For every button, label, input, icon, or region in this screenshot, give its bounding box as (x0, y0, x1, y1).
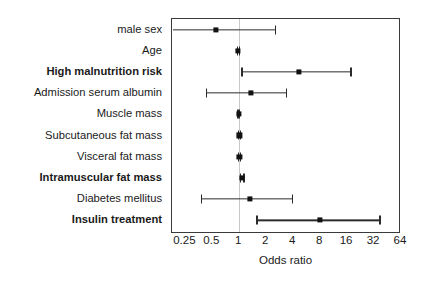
forest-row (172, 83, 399, 104)
odds-ratio-point-estimate (240, 175, 245, 180)
x-axis-title: Odds ratio (171, 254, 400, 266)
odds-ratio-point-estimate (248, 91, 253, 96)
x-axis-tick-labels: 0.250.51248163264 (171, 234, 400, 248)
confidence-interval-cap-upper (275, 25, 276, 34)
confidence-interval-cap-upper (292, 195, 293, 204)
row-label-male-sex: male sex (117, 23, 162, 35)
forest-row (172, 40, 399, 61)
row-label-column: male sexAgeHigh malnutrition riskAdmissi… (0, 18, 166, 233)
forest-row (172, 19, 399, 40)
odds-ratio-point-estimate (236, 48, 241, 53)
confidence-interval-cap-lower (206, 89, 207, 98)
odds-ratio-point-estimate (237, 154, 242, 159)
x-tick-label: 16 (340, 234, 353, 247)
x-tick-label: 1 (235, 234, 241, 247)
confidence-interval-cap-lower (241, 67, 242, 76)
forest-row (172, 189, 399, 210)
forest-row (172, 146, 399, 167)
row-label-admission-serum-albumin: Admission serum albumin (34, 86, 162, 98)
odds-ratio-point-estimate (236, 112, 241, 117)
odds-ratio-point-estimate (213, 27, 218, 32)
row-label-subcutaneous-fat-mass: Subcutaneous fat mass (45, 129, 162, 141)
forest-plot-figure: male sexAgeHigh malnutrition riskAdmissi… (0, 0, 424, 282)
confidence-interval-cap-lower (256, 216, 257, 225)
odds-ratio-point-estimate (237, 133, 242, 138)
confidence-interval-line (206, 92, 287, 93)
forest-row (172, 167, 399, 188)
odds-ratio-point-estimate (247, 197, 252, 202)
confidence-interval-cap-upper (350, 67, 351, 76)
x-tick-label: 8 (316, 234, 322, 247)
x-tick-label: 64 (394, 234, 407, 247)
row-label-insulin-treatment: Insulin treatment (72, 213, 162, 225)
row-label-muscle-mass: Muscle mass (97, 107, 162, 119)
forest-row (172, 61, 399, 82)
odds-ratio-point-estimate (318, 218, 323, 223)
x-tick-label: 32 (367, 234, 380, 247)
forest-row (172, 210, 399, 231)
odds-ratio-point-estimate (296, 69, 301, 74)
plot-area (171, 18, 400, 233)
forest-row (172, 125, 399, 146)
row-label-high-malnutrition-risk: High malnutrition risk (46, 65, 162, 77)
confidence-interval-cap-upper (286, 89, 287, 98)
confidence-interval-line (173, 29, 277, 30)
x-tick-label: 0.5 (203, 234, 219, 247)
row-label-intramuscular-fat-mass: Intramuscular fat mass (40, 171, 163, 183)
confidence-interval-cap-upper (379, 216, 380, 225)
x-tick-label: 4 (289, 234, 295, 247)
forest-row (172, 104, 399, 125)
plot-inner (172, 19, 399, 232)
row-label-visceral-fat-mass: Visceral fat mass (77, 150, 162, 162)
confidence-interval-cap-lower (201, 195, 202, 204)
row-label-diabetes-mellitus: Diabetes mellitus (77, 192, 162, 204)
row-label-age: Age (142, 44, 162, 56)
x-tick-label: 0.25 (173, 234, 195, 247)
x-tick-label: 2 (262, 234, 268, 247)
